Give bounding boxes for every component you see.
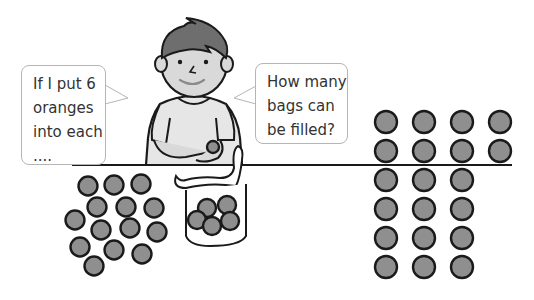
boy [146,18,242,165]
speech-bubble-left: If I put 6 oranges into each .... [21,65,106,165]
bubble-left-line-4: .... [33,144,95,168]
orange-pile [66,175,167,276]
bubble-right-line-1: How many [267,70,337,94]
bubble-left-line-2: oranges [33,96,95,120]
bubble-right-line-2: bags can [267,94,337,118]
bubble-left-line-3: into each [33,120,95,144]
orange-grid [375,111,511,278]
bubble-left-line-1: If I put 6 [33,72,95,96]
orange-in-hand [207,141,219,153]
bubble-right-line-3: be filled? [267,118,337,142]
speech-bubble-right: How many bags can be filled? [255,63,348,144]
